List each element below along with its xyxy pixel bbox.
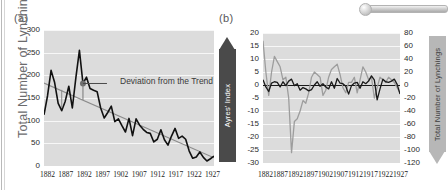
chart-panel-a: (a) Total Number of Lynchings 0501001502…: [0, 0, 222, 190]
panel-b-left-tick-5: 5: [233, 68, 259, 76]
panel-b-left-tick-15: 15: [233, 42, 259, 50]
panel-a-y-tick-300: 300: [14, 26, 40, 34]
panel-a-y-tick-150: 150: [14, 94, 40, 102]
x-tick-1912: 1912: [348, 170, 363, 179]
x-tick-1887: 1887: [273, 170, 288, 179]
x-tick-1882: 1882: [40, 170, 55, 179]
x-tick-1907: 1907: [132, 170, 147, 179]
panel-b-ayres-index-line: [263, 41, 400, 153]
panel-b-left-tick--30: -30: [233, 159, 259, 167]
panel-b-left-axis-title: Ayres' Index: [223, 84, 232, 127]
x-tick-1892: 1892: [288, 170, 303, 179]
x-tick-1922: 1922: [378, 170, 393, 179]
panel-b-right-axis-arrow: Total Number of Lynchings: [429, 36, 446, 164]
panel-b-right-tick-0: 0: [404, 81, 430, 89]
panel-b-left-tick--5: -5: [233, 94, 259, 102]
panel-b-right-tick--40: -40: [404, 107, 430, 115]
panel-b-left-tick--10: -10: [233, 107, 259, 115]
panel-b-right-tick--80: -80: [404, 133, 430, 141]
panel-b-right-tick-40: 40: [404, 55, 430, 63]
x-tick-1882: 1882: [258, 170, 273, 179]
panel-a-x-tick-labels: 1882188718921897190219071912191719221927: [40, 170, 220, 179]
x-tick-1897: 1897: [95, 170, 110, 179]
panel-a-deviation-annotation: Deviation from the Trend: [120, 76, 213, 86]
chart-panel-b: (b) Ayres' Index 20151050-5-10-15-20-25-…: [210, 0, 447, 190]
panel-b-right-tick-60: 60: [404, 42, 430, 50]
panel-a-y-tick-100: 100: [14, 117, 40, 125]
panel-b-right-axis-title: Total Number of Lynchings: [433, 47, 442, 141]
panel-b-left-tick--25: -25: [233, 146, 259, 154]
x-tick-1897: 1897: [303, 170, 318, 179]
panel-b-right-tick-80: 80: [404, 29, 430, 37]
panel-b-left-tick--20: -20: [233, 133, 259, 141]
panel-b-label: (b): [219, 12, 233, 24]
panel-b-series-svg: [263, 33, 400, 163]
right-axis-arrow-bar: Total Number of Lynchings: [429, 36, 446, 152]
panel-b-x-tick-labels: 1882188718921897190219071912191719221927: [258, 170, 406, 179]
panel-b-right-tick--60: -60: [404, 120, 430, 128]
panel-b-left-tick-10: 10: [233, 55, 259, 63]
panel-a-y-tick-250: 250: [14, 49, 40, 57]
panel-b-left-tick--15: -15: [233, 120, 259, 128]
panel-b-plot-area: [263, 33, 400, 163]
x-tick-1887: 1887: [58, 170, 73, 179]
x-tick-1902: 1902: [318, 170, 333, 179]
panel-a-y-tick-0: 0: [14, 162, 40, 170]
panel-a-plot-area: [44, 30, 214, 166]
panel-a-y-tick-50: 50: [14, 139, 40, 147]
arrow-down-head-icon: [429, 151, 445, 164]
x-tick-1917: 1917: [363, 170, 378, 179]
x-tick-1902: 1902: [113, 170, 128, 179]
x-tick-1917: 1917: [168, 170, 183, 179]
panel-a-series-svg: [44, 30, 214, 166]
panel-b-left-tick-0: 0: [233, 81, 259, 89]
x-tick-1922: 1922: [187, 170, 202, 179]
x-tick-1912: 1912: [150, 170, 165, 179]
panel-b-right-tick--120: -120: [404, 159, 430, 167]
panel-a-y-tick-200: 200: [14, 71, 40, 79]
panel-b-right-tick--100: -100: [404, 146, 430, 154]
x-tick-1892: 1892: [77, 170, 92, 179]
panel-a-lynchings-line: [44, 50, 214, 161]
panel-b-left-tick-20: 20: [233, 29, 259, 37]
panel-b-right-tick--20: -20: [404, 94, 430, 102]
panel-b-right-tick-20: 20: [404, 68, 430, 76]
x-tick-1907: 1907: [333, 170, 348, 179]
x-tick-1927: 1927: [393, 170, 408, 179]
